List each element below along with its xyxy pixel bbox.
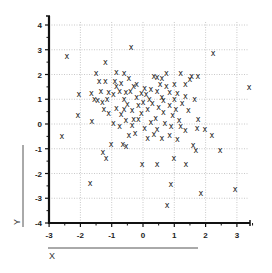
y-tick-label: -1 xyxy=(35,145,43,154)
y-tick-label: 1 xyxy=(38,95,43,104)
x-marker: x xyxy=(147,95,152,104)
x-marker: x xyxy=(90,117,95,126)
x-marker: x xyxy=(104,154,109,163)
x-marker: x xyxy=(106,109,111,118)
x-marker: x xyxy=(139,109,144,118)
x-marker: x xyxy=(97,77,102,86)
x-marker: x xyxy=(117,122,122,131)
x-marker: x xyxy=(131,115,136,124)
x-marker: x xyxy=(127,131,132,140)
x-tick-label: 2 xyxy=(203,231,208,240)
x-marker: x xyxy=(76,111,81,120)
x-marker: x xyxy=(196,115,201,124)
x-marker: x xyxy=(183,126,188,135)
x-marker: x xyxy=(148,85,153,94)
x-tick-label: 3 xyxy=(235,231,240,240)
x-marker: x xyxy=(172,154,177,163)
x-marker: x xyxy=(153,114,158,123)
x-marker: x xyxy=(105,95,110,104)
x-marker: x xyxy=(128,87,133,96)
x-marker: x xyxy=(76,90,81,99)
x-tick-label: 1 xyxy=(172,231,177,240)
x-marker: x xyxy=(109,140,114,149)
x-marker: x xyxy=(133,129,138,138)
x-marker: x xyxy=(130,106,135,115)
x-marker: x xyxy=(114,68,119,77)
y-tick-label: -3 xyxy=(35,194,43,203)
x-marker: x xyxy=(140,160,145,169)
x-marker: x xyxy=(103,58,108,67)
x-marker: x xyxy=(155,160,160,169)
x-marker: x xyxy=(122,95,127,104)
x-marker: x xyxy=(111,119,116,128)
x-tick-label: -1 xyxy=(108,231,116,240)
x-marker: x xyxy=(184,160,189,169)
x-marker: x xyxy=(161,108,166,117)
x-marker: x xyxy=(161,96,166,105)
x-marker: x xyxy=(191,141,196,150)
x-marker: x xyxy=(195,124,200,133)
x-marker: x xyxy=(178,69,183,78)
x-marker: x xyxy=(159,134,164,143)
x-marker: x xyxy=(211,49,216,58)
x-marker: x xyxy=(122,105,127,114)
x-marker: x xyxy=(114,82,119,91)
x-marker: x xyxy=(172,80,177,89)
x-marker: x xyxy=(134,80,139,89)
x-axis-title: X xyxy=(49,251,55,261)
x-marker: x xyxy=(129,43,134,52)
x-marker: x xyxy=(145,134,150,143)
x-marker: x xyxy=(142,84,147,93)
y-tick-label: -2 xyxy=(35,170,43,179)
scatter-chart: xxxxxxxxxxxxxxxxxxxxxxxxxxxxxxxxxxxxxxxx… xyxy=(0,0,272,273)
x-marker: x xyxy=(218,146,223,155)
x-marker: x xyxy=(172,95,177,104)
x-marker: x xyxy=(233,185,238,194)
x-marker: x xyxy=(188,75,193,84)
x-axis-title-group: X xyxy=(48,248,198,261)
x-marker: x xyxy=(178,122,183,131)
x-marker: x xyxy=(88,179,93,188)
y-tick-label: 0 xyxy=(38,120,43,129)
x-marker: x xyxy=(168,180,173,189)
x-marker: x xyxy=(164,82,169,91)
data-points: xxxxxxxxxxxxxxxxxxxxxxxxxxxxxxxxxxxxxxxx… xyxy=(60,43,252,210)
x-marker: x xyxy=(180,99,185,108)
x-tick-label: -3 xyxy=(46,231,54,240)
x-marker: x xyxy=(165,201,170,210)
x-marker: x xyxy=(124,142,129,151)
x-tick-label: -2 xyxy=(77,231,85,240)
x-marker: x xyxy=(167,131,172,140)
y-axis-title: Y xyxy=(12,219,22,225)
x-marker: x xyxy=(103,77,108,86)
x-marker: x xyxy=(169,122,174,131)
x-marker: x xyxy=(164,69,169,78)
y-tick-label: 2 xyxy=(38,71,43,80)
x-marker: x xyxy=(98,87,103,96)
x-marker: x xyxy=(163,119,168,128)
x-marker: x xyxy=(186,106,191,115)
x-marker: x xyxy=(152,130,157,139)
x-marker: x xyxy=(209,131,214,140)
y-tick-label: 4 xyxy=(38,21,43,30)
x-marker: x xyxy=(142,124,147,133)
x-marker: x xyxy=(123,116,128,125)
x-tick-label: 0 xyxy=(141,231,146,240)
y-tick-label: 3 xyxy=(38,46,43,55)
x-marker: x xyxy=(203,125,208,134)
x-marker: x xyxy=(175,135,180,144)
x-marker: x xyxy=(65,52,70,61)
x-marker: x xyxy=(247,83,252,92)
x-marker: x xyxy=(195,72,200,81)
x-marker: x xyxy=(199,189,204,198)
x-marker: x xyxy=(111,90,116,99)
y-axis-title-group: Y xyxy=(12,145,23,227)
x-marker: x xyxy=(192,95,197,104)
x-marker: x xyxy=(60,132,65,141)
x-marker: x xyxy=(170,111,175,120)
y-tick-label: -4 xyxy=(35,219,43,228)
